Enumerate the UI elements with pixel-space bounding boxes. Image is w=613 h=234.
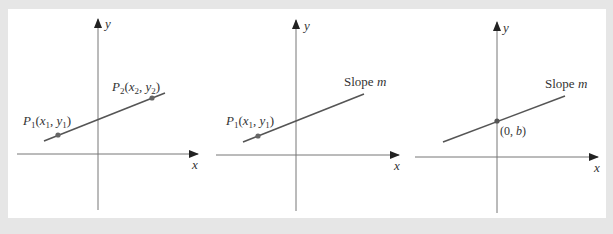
panel-slope-intercept: y x (0, b) Slope m	[415, 20, 600, 213]
line-equation-diagrams: y x P1(x1, y1) P2(x2, y2) y x P1(x1, y1)…	[0, 0, 613, 234]
point-intercept	[494, 118, 499, 123]
y-axis-label: y	[103, 16, 111, 31]
x-axis-label: x	[593, 160, 600, 175]
point-p1	[255, 133, 260, 138]
panel-two-point: y x P1(x1, y1) P2(x2, y2)	[17, 16, 198, 210]
point-p2-label: P2(x2, y2)	[111, 79, 160, 96]
slope-label: Slope m	[545, 76, 587, 91]
x-axis-label: x	[191, 157, 198, 172]
slope-label: Slope m	[344, 74, 386, 89]
y-axis-label: y	[302, 18, 310, 33]
point-p1	[55, 132, 60, 137]
panel-point-slope: y x P1(x1, y1) Slope m	[216, 18, 400, 211]
point-p1-label: P1(x1, y1)	[225, 113, 274, 130]
point-p2	[149, 95, 154, 100]
point-p1-label: P1(x1, y1)	[22, 113, 71, 130]
y-axis-label: y	[501, 20, 509, 35]
intercept-label: (0, b)	[500, 124, 526, 138]
x-axis-label: x	[393, 158, 400, 173]
